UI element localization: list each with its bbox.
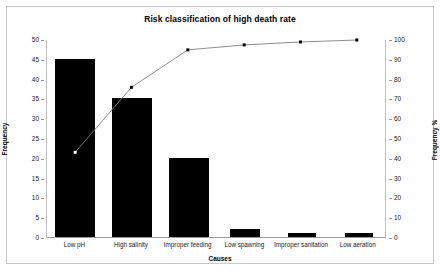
y-axis-left-title: Frequency [1,123,8,156]
chart-title: Risk classification of high death rate [0,14,440,24]
y-axis-right-tick-label: 50 [394,136,401,143]
y-axis-left-tick-label: 50 [32,37,39,44]
y-axis-left-tick-label: 25 [32,136,39,143]
y-axis-left-tick-label: 20 [32,156,39,163]
cumulative-marker [355,39,358,42]
y-axis-right-tick-mark [389,99,392,100]
y-axis-left-tick-label: 35 [32,96,39,103]
y-axis-left-tick-label: 30 [32,116,39,123]
x-axis-category-label: Improper sanitation [274,241,328,248]
y-axis-left-tick-mark [41,198,44,199]
y-axis-right-tick-label: 10 [394,215,401,222]
y-axis-left-tick-label: 40 [32,76,39,83]
y-axis-right-tick-mark [389,60,392,61]
cumulative-marker [74,151,77,154]
y-axis-right-tick-label: 90 [394,57,401,64]
y-axis-right-tick-mark [389,238,392,239]
y-axis-right-tick-mark [389,159,392,160]
y-axis-right-tick-label: 100 [394,37,405,44]
y-axis-right: 0102030405060708090100 [387,40,431,238]
y-axis-right-tick-label: 0 [394,235,398,242]
plot-area [46,40,386,238]
y-axis-left-tick-label: 45 [32,57,39,64]
y-axis-right-tick-label: 60 [394,116,401,123]
y-axis-right-title: Frequency % [431,119,438,159]
y-axis-right-tick-label: 40 [394,156,401,163]
y-axis-right-tick-mark [389,179,392,180]
y-axis-right-tick-label: 80 [394,76,401,83]
pareto-chart: Risk classification of high death rate F… [0,0,440,279]
y-axis-left-tick-mark [41,139,44,140]
y-axis-left-tick-mark [41,40,44,41]
cumulative-marker [130,86,133,89]
y-axis-left-tick-mark [41,60,44,61]
x-axis-category-label: Low aeration [340,241,376,248]
y-axis-left-tick-mark [41,238,44,239]
cumulative-marker [299,40,302,43]
x-axis-category-label: Low pH [64,241,85,248]
x-axis-category-labels: Low pHHigh salinityImproper feedingLow s… [46,241,386,253]
cumulative-line [75,40,357,152]
y-axis-left-tick-mark [41,179,44,180]
y-axis-left-tick-label: 0 [35,235,39,242]
y-axis-right-tick-mark [389,119,392,120]
y-axis-left-tick-mark [41,119,44,120]
x-axis-title: Causes [0,255,440,262]
y-axis-right-tick-label: 70 [394,96,401,103]
y-axis-right-tick-mark [389,218,392,219]
y-axis-right-tick-mark [389,40,392,41]
y-axis-left: Frequency 05101520253035404550 [2,40,46,238]
x-axis-category-label: Low spawning [224,241,264,248]
y-axis-left-tick-mark [41,99,44,100]
cumulative-marker [243,43,246,46]
y-axis-left-tick-mark [41,80,44,81]
y-axis-right-tick-mark [389,198,392,199]
cumulative-line-svg [47,40,385,237]
y-axis-right-tick-label: 20 [394,195,401,202]
y-axis-right-tick-label: 30 [394,175,401,182]
x-axis-category-label: Improper feeding [164,241,212,248]
y-axis-right-tick-mark [389,80,392,81]
y-axis-left-tick-mark [41,159,44,160]
y-axis-left-tick-mark [41,218,44,219]
x-axis-category-label: High salinity [114,241,148,248]
cumulative-line-layer [47,40,385,237]
y-axis-left-tick-label: 5 [35,215,39,222]
cumulative-marker [186,48,189,51]
y-axis-left-tick-label: 15 [32,175,39,182]
y-axis-right-tick-mark [389,139,392,140]
y-axis-left-tick-label: 10 [32,195,39,202]
